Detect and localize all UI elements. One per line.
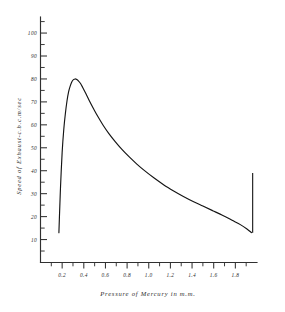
x-tick-label: 1.8: [231, 272, 239, 278]
x-tick-label: 0.8: [123, 272, 131, 278]
chart-figure: 102030405060708090100 0.20.40.60.81.01.2…: [0, 0, 285, 312]
x-tick-label: 0.4: [80, 272, 88, 278]
y-axis-title: Speed of Exhaust-c.b.c.m/sec: [15, 97, 22, 195]
y-tick-label: 100: [28, 30, 37, 36]
y-tick-label: 40: [31, 168, 37, 174]
x-tick-label: 1.4: [188, 272, 196, 278]
y-tick-label: 20: [31, 214, 37, 220]
y-tick-label: 30: [30, 191, 37, 197]
x-tick-label: 0.2: [58, 272, 66, 278]
exhaust-speed-line-chart: 102030405060708090100 0.20.40.60.81.01.2…: [0, 0, 285, 312]
y-tick-label: 70: [31, 99, 37, 105]
y-axis-tick-labels: 102030405060708090100: [28, 30, 37, 242]
y-tick-label: 90: [31, 53, 37, 59]
y-tick-label: 10: [31, 237, 37, 243]
x-axis-major-ticks: [62, 263, 235, 269]
x-tick-label: 1.6: [210, 272, 218, 278]
plot-axes: [41, 17, 258, 263]
x-axis-title: Pressure of Mercury in m.m.: [99, 290, 195, 297]
y-tick-label: 60: [31, 122, 37, 128]
x-tick-label: 1.0: [145, 272, 153, 278]
y-tick-label: 80: [31, 76, 37, 82]
y-tick-label: 50: [31, 145, 37, 151]
x-tick-label: 0.6: [102, 272, 110, 278]
x-axis-tick-labels: 0.20.40.60.81.01.21.41.61.8: [58, 272, 239, 278]
exhaust-speed-curve: [59, 79, 252, 233]
x-tick-label: 1.2: [167, 272, 175, 278]
